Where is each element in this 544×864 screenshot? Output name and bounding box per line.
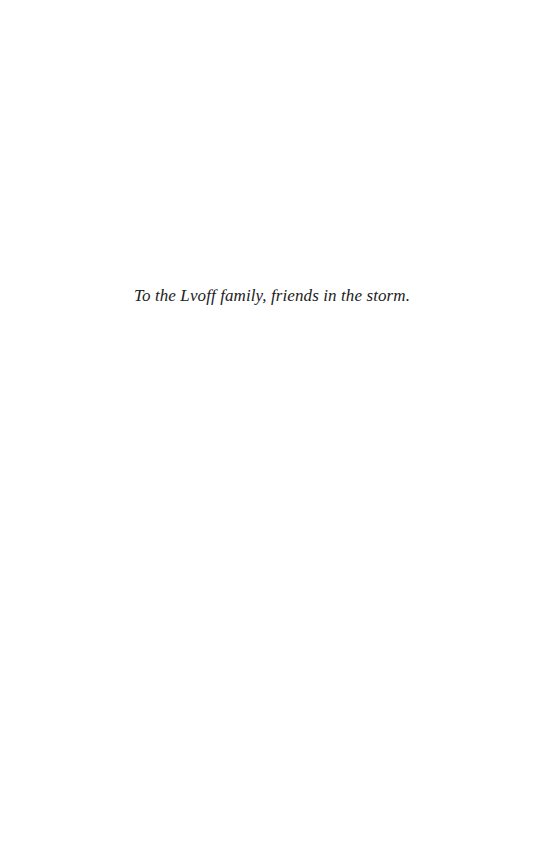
- book-page: To the Lvoff family, friends in the stor…: [0, 0, 544, 864]
- dedication-text: To the Lvoff family, friends in the stor…: [0, 285, 544, 307]
